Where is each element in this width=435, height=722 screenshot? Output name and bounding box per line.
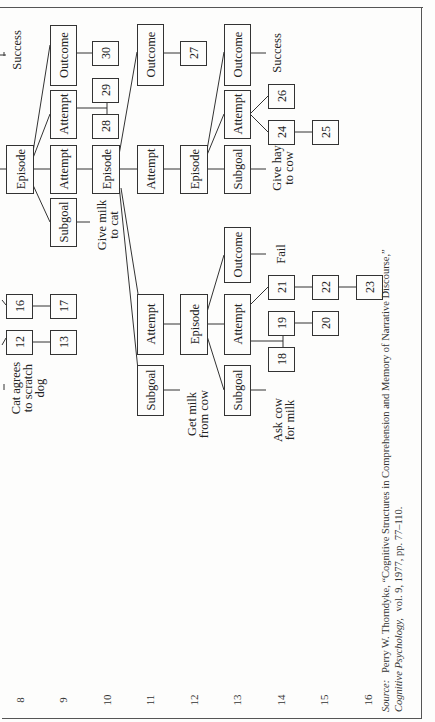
annotation-get-milk: from cow [197, 390, 211, 438]
level-number: 16 [362, 694, 374, 706]
tree-node-attempt: Attempt [51, 146, 77, 194]
node-label: 27 [187, 47, 201, 59]
tree-node-event-21: 21 [269, 276, 295, 300]
node-label: 17 [57, 300, 71, 312]
node-label: 24 [275, 126, 289, 138]
annotation-success-top: Success [10, 30, 24, 70]
node-label: 13 [57, 336, 71, 348]
tree-node-event-27: 27 [181, 42, 207, 66]
tree-node-event-24: 24 [269, 121, 295, 145]
tree-node-event-28: 28 [93, 115, 119, 139]
tree-node-outcome: Outcome [225, 25, 251, 86]
tree-node-subgoal: Subgoal [51, 199, 77, 247]
node-label: Subgoal [231, 148, 245, 190]
tree-node-event-19: 19 [269, 312, 295, 336]
source-line-1: Source: Perry W. Thorndyke, “Cognitive S… [380, 249, 391, 712]
tree-node-event-23: 23 [357, 276, 383, 300]
node-label: 29 [99, 84, 113, 96]
node-label: 20 [319, 317, 333, 329]
tree-node-event-18: 18 [269, 348, 295, 372]
annotation-give-milk: to cat [107, 211, 121, 239]
node-label: Attempt [144, 303, 158, 344]
tree-node-subgoal: Subgoal [225, 146, 251, 194]
node-label: Subgoal [57, 201, 71, 243]
node-label: Subgoal [231, 369, 245, 411]
node-label: Subgoal [144, 369, 158, 411]
tree-node-episode: Episode [181, 295, 208, 355]
tree-node-outcome: Outcome [51, 26, 77, 86]
level-number: 14 [275, 694, 287, 706]
node-label: Attempt [57, 93, 71, 134]
node-label: Attempt [231, 303, 245, 344]
tree-node-attempt: Attempt [225, 91, 251, 139]
story-tree-diagram: EpisodeSubgoalAttemptAttemptOutcome30292… [0, 0, 435, 722]
annotation-success-right: Success [270, 33, 284, 73]
node-label: Attempt [144, 148, 158, 189]
tree-node-attempt: Attempt [138, 146, 164, 194]
node-label: 18 [275, 353, 289, 365]
tree-node-attempt: Attempt [225, 295, 251, 355]
level-number: 13 [231, 694, 243, 706]
node-label: Episode [188, 303, 202, 344]
level-number: 11 [144, 695, 156, 706]
annotation-give-hay: to cow [282, 151, 296, 185]
node-label: Episode [188, 148, 202, 189]
node-label: Outcome [231, 31, 245, 77]
node-label: 21 [275, 281, 289, 293]
level-number: 10 [101, 694, 113, 706]
node-label: Episode [100, 148, 114, 189]
tree-node-subgoal: Subgoal [138, 366, 164, 416]
tree-node-attempt: Attempt [51, 91, 77, 139]
tree-node-episode: Episode [181, 146, 208, 194]
node-label: 12 [13, 336, 27, 348]
node-label: Episode [14, 148, 28, 189]
level-number: 12 [188, 695, 200, 706]
tree-node-event-12: 12 [7, 331, 33, 355]
tree-node-event-13: 13 [51, 331, 77, 355]
level-numbers: 8910111213141516 [14, 694, 374, 706]
node-label: 16 [13, 300, 27, 312]
tree-node-event-25: 25 [313, 121, 339, 145]
node-label: 22 [319, 281, 333, 293]
tree-node-episode: Episode [93, 146, 120, 194]
tree-node-outcome: Outcome [138, 25, 164, 86]
node-label: Attempt [231, 93, 245, 134]
tree-node-episode: Episode [7, 146, 34, 194]
tree-nodes: EpisodeSubgoalAttemptAttemptOutcome30292… [7, 25, 383, 416]
tree-node-attempt: Attempt [138, 295, 164, 355]
node-label: 19 [275, 317, 289, 329]
book-page: EpisodeSubgoalAttemptAttemptOutcome30292… [0, 0, 435, 722]
node-label: Attempt [57, 148, 71, 189]
source-citation: Source: Perry W. Thorndyke, “Cognitive S… [380, 249, 404, 712]
annotation-cat-agrees: dog [33, 378, 47, 398]
tree-node-outcome: Outcome [225, 228, 251, 283]
node-label: 26 [275, 90, 289, 102]
annotation-ask-cow: for milk [283, 399, 297, 440]
tree-node-event-29: 29 [93, 79, 119, 103]
node-label: Outcome [57, 32, 71, 78]
tree-node-event-26: 26 [269, 85, 295, 109]
level-number: 15 [318, 694, 330, 706]
node-label: 30 [99, 47, 113, 59]
node-label: Outcome [144, 31, 158, 77]
level-number: 8 [14, 697, 26, 703]
tree-node-event-30: 30 [93, 42, 119, 66]
tree-node-event-17: 17 [51, 295, 77, 319]
node-label: 23 [363, 281, 377, 293]
tree-node-event-22: 22 [313, 276, 339, 300]
level-number: 9 [57, 697, 69, 703]
node-label: 25 [319, 126, 333, 138]
annotation-fail: Fail [274, 244, 288, 264]
node-label: Outcome [231, 231, 245, 277]
tree-node-subgoal: Subgoal [225, 366, 251, 416]
source-line-2: Cognitive Psychology, vol. 9, 1977, pp. … [393, 507, 404, 712]
node-label: 28 [99, 120, 113, 132]
tree-node-event-16: 16 [7, 295, 33, 319]
tree-node-event-20: 20 [313, 312, 339, 336]
